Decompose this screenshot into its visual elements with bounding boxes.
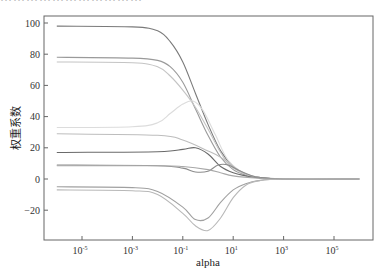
series-line-coef4 xyxy=(57,101,359,179)
y-tick-label: 40 xyxy=(30,111,40,122)
x-axis-label: alpha xyxy=(196,256,220,268)
series-line-coef2 xyxy=(57,57,359,179)
y-tick-label: 0 xyxy=(35,174,40,185)
y-tick-label: 60 xyxy=(30,80,40,91)
x-tick-label: 101 xyxy=(225,245,238,256)
y-tick-label: 20 xyxy=(30,142,40,153)
series-line-coef9 xyxy=(57,179,359,221)
x-axis-ticks: 10-510-310-1101103105 xyxy=(73,236,339,256)
series-line-coef1 xyxy=(57,26,359,179)
x-tick-label: 10-1 xyxy=(173,245,188,256)
y-tick-label: 100 xyxy=(25,18,40,29)
y-axis-label: 权重系数 xyxy=(9,106,23,150)
y-tick-label: −20 xyxy=(24,205,40,216)
series-line-coef6 xyxy=(57,148,359,179)
x-tick-label: 103 xyxy=(275,245,288,256)
series-line-coef7 xyxy=(57,164,359,179)
plot-frame xyxy=(44,16,373,240)
x-tick-label: 105 xyxy=(326,245,339,256)
series-line-coef5 xyxy=(57,134,359,179)
y-tick-label: 80 xyxy=(30,49,40,60)
series-line-coef8 xyxy=(57,166,359,179)
x-tick-label: 10-3 xyxy=(123,245,138,256)
x-tick-label: 10-5 xyxy=(73,245,88,256)
series-lines xyxy=(57,26,359,231)
ridge-trace-chart: 100806040200−20 10-510-310-1101103105 al… xyxy=(0,0,386,279)
